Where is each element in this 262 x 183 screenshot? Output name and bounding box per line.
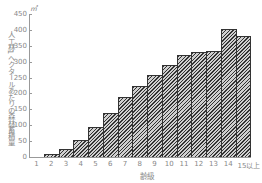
bar-8 [132,86,148,158]
x-tick-label: 8 [132,160,147,168]
x-tick-label: 6 [103,160,118,168]
y-tick-label: 100 [12,121,27,129]
y-tick-label: 50 [12,137,27,145]
y-tick-label: 250 [12,74,27,82]
x-tick-label: 15以上 [238,160,262,170]
y-axis [29,14,30,157]
bar-13 [206,51,222,158]
bar-9 [147,75,163,158]
y-tick-label: 150 [12,105,27,113]
x-tick-label: 3 [59,160,74,168]
x-tick-label: 11 [177,160,192,168]
bar-12 [191,52,207,158]
y-tick-mark [29,141,32,142]
x-axis [29,157,251,158]
x-tick-label: 14 [221,160,236,168]
bar-11 [177,55,193,158]
bar-10 [162,65,178,158]
x-tick-label: 4 [73,160,88,168]
y-axis-unit: ㎥ [30,3,37,13]
y-tick-label: 450 [12,10,27,18]
bar-14 [221,29,237,158]
y-tick-mark [29,14,32,15]
y-tick-label: 200 [12,89,27,97]
bar-6 [103,113,119,158]
bar-7 [118,97,134,158]
x-tick-label: 12 [191,160,206,168]
y-tick-mark [29,78,32,79]
x-tick-label: 13 [206,160,221,168]
y-tick-mark [29,125,32,126]
x-tick-label: 7 [118,160,133,168]
x-tick-label: 1 [29,160,44,168]
x-tick-label: 9 [147,160,162,168]
y-tick-mark [29,30,32,31]
bar-4 [73,140,89,158]
y-tick-mark [29,109,32,110]
y-tick-label: 0 [12,153,27,161]
y-tick-mark [29,157,32,158]
y-tick-mark [29,62,32,63]
x-tick-label: 5 [88,160,103,168]
y-tick-mark [29,46,32,47]
x-axis-label: 齢級 [140,170,154,181]
y-tick-label: 300 [12,58,27,66]
x-tick-label: 2 [44,160,59,168]
bar-5 [88,127,104,158]
x-tick-label: 10 [162,160,177,168]
y-tick-label: 400 [12,26,27,34]
bar-15以上 [236,36,252,158]
y-tick-label: 350 [12,42,27,50]
y-tick-mark [29,93,32,94]
